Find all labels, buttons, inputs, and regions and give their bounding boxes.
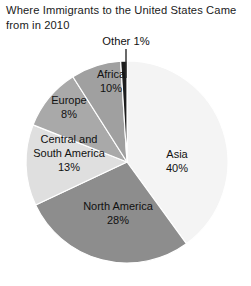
pie-chart-figure: Where Immigrants to the United States Ca…: [0, 0, 251, 286]
slice-label-central-south-america-value: 13%: [58, 161, 80, 173]
pie-svg: Other 1% Africa 10% Europe 8% Central an…: [0, 0, 251, 286]
slice-label-north-america-value: 28%: [107, 214, 129, 226]
pie-chart-canvas: Other 1% Africa 10% Europe 8% Central an…: [0, 0, 251, 286]
slice-label-asia-name: Asia: [166, 148, 188, 160]
slice-label-other: Other 1%: [102, 35, 149, 47]
slice-label-europe-name: Europe: [51, 94, 86, 106]
slice-label-central-south-america-line1: Central and: [41, 133, 98, 145]
pie-slices: [26, 61, 228, 263]
slice-label-europe-value: 8%: [61, 108, 77, 120]
slice-label-asia-value: 40%: [166, 162, 188, 174]
slice-label-africa-value: 10%: [100, 82, 122, 94]
slice-label-africa-name: Africa: [97, 68, 126, 80]
slice-label-central-south-america-line2: South America: [33, 147, 105, 159]
slice-label-north-america-name: North America: [83, 200, 154, 212]
slice-label-other-text: Other 1%: [102, 35, 149, 47]
